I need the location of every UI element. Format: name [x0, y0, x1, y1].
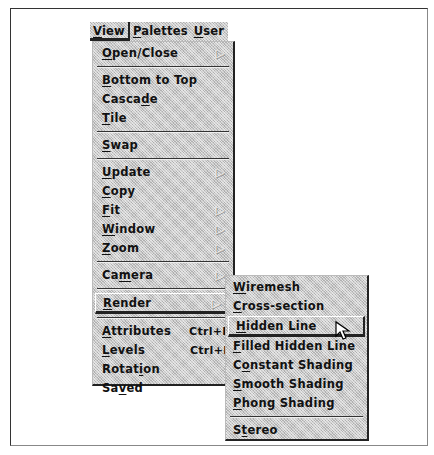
menu-item-label: Smooth Shading — [233, 377, 344, 391]
view-menu-item-bottom-to-top[interactable]: Bottom to Top — [93, 71, 233, 90]
menu-separator — [97, 66, 229, 68]
menu-item-label: Zoom — [102, 241, 139, 255]
render-menu-item-phong-shading[interactable]: Phong Shading — [226, 394, 367, 413]
menu-separator — [230, 416, 363, 418]
mnemonic-underline: t — [242, 423, 248, 437]
view-menu-item-saved[interactable]: Saved — [93, 379, 233, 398]
view-menu-item-attributes[interactable]: AttributesCtrl+B — [93, 322, 233, 341]
render-menu-item-stereo[interactable]: Stereo — [226, 421, 367, 440]
mnemonic-underline: m — [119, 268, 131, 282]
render-submenu: WiremeshCross-sectionHidden LineFilled H… — [225, 275, 369, 441]
menu-item-label: Camera — [102, 268, 153, 282]
render-menu-item-wiremesh[interactable]: Wiremesh — [226, 278, 367, 297]
mnemonic-underline: A — [102, 324, 111, 338]
menu-separator — [97, 158, 229, 160]
view-menu-item-camera[interactable]: Camera▷ — [93, 266, 233, 285]
menu-item-label: Swap — [102, 138, 138, 152]
menu-item-label: Saved — [102, 381, 143, 395]
view-menu-item-copy[interactable]: Copy — [93, 182, 233, 201]
mnemonic-underline: C — [102, 184, 111, 198]
view-menu-item-render[interactable]: Render▷ — [95, 293, 231, 314]
menu-item-label: Phong Shading — [233, 396, 335, 410]
menu-item-label: Cross-section — [233, 299, 324, 313]
menu-item-label: Constant Shading — [233, 358, 353, 372]
mnemonic-underline: o — [242, 358, 250, 372]
submenu-arrow-icon: ▷ — [215, 163, 225, 182]
view-menu: Open/Close▷Bottom to TopCascadeTileSwapU… — [92, 41, 235, 386]
menu-separator — [97, 288, 229, 290]
mnemonic-underline: S — [102, 138, 111, 152]
menubar-item-view[interactable]: View — [90, 22, 130, 41]
mnemonic-underline: S — [233, 377, 242, 391]
mouse-pointer-icon — [333, 320, 355, 342]
menu-item-label: Hidden Line — [236, 319, 317, 333]
menu-separator — [97, 317, 229, 319]
view-menu-item-levels[interactable]: LevelsCtrl+E — [93, 341, 233, 360]
menu-item-label: Wiremesh — [233, 280, 300, 294]
submenu-arrow-icon: ▷ — [215, 44, 225, 63]
menu-item-label: Update — [102, 165, 151, 179]
mnemonic-underline: B — [102, 73, 111, 87]
view-menu-item-open-close[interactable]: Open/Close▷ — [93, 44, 233, 63]
menu-item-label: Attributes — [102, 324, 171, 338]
mnemonic-underline: W — [233, 280, 246, 294]
mnemonic-underline: d — [141, 92, 150, 106]
menu-item-label: Open/Close — [102, 46, 178, 60]
menu-item-label: Copy — [102, 184, 135, 198]
mnemonic-underline: U — [102, 165, 112, 179]
menu-item-label: Rotation — [102, 362, 160, 376]
mnemonic-underline: U — [194, 24, 204, 38]
mnemonic-underline: T — [102, 111, 110, 125]
menu-separator — [97, 261, 229, 263]
mnemonic-underline: F — [102, 203, 110, 217]
view-menu-item-tile[interactable]: Tile — [93, 109, 233, 128]
view-menu-item-window[interactable]: Window▷ — [93, 220, 233, 239]
mnemonic-underline: R — [103, 296, 112, 310]
mnemonic-underline: V — [93, 24, 102, 38]
menubar-item-user[interactable]: User — [191, 22, 227, 41]
mnemonic-underline: i — [139, 362, 143, 376]
view-menu-item-update[interactable]: Update▷ — [93, 163, 233, 182]
view-menu-item-rotation[interactable]: Rotation — [93, 360, 233, 379]
mnemonic-underline: W — [102, 222, 115, 236]
mnemonic-underline: Z — [102, 241, 111, 255]
submenu-arrow-icon: ▷ — [215, 220, 225, 239]
render-menu-item-smooth-shading[interactable]: Smooth Shading — [226, 375, 367, 394]
mnemonic-underline: F — [233, 339, 241, 353]
mnemonic-underline: P — [133, 24, 141, 38]
mnemonic-underline: C — [233, 299, 242, 313]
menu-item-label: Tile — [102, 111, 127, 125]
menubar-item-palettes[interactable]: Palettes — [130, 22, 191, 41]
submenu-arrow-icon: ▷ — [211, 294, 221, 312]
menu-item-label: Levels — [102, 343, 145, 357]
menu-item-label: Fit — [102, 203, 120, 217]
mnemonic-underline: L — [102, 343, 110, 357]
menu-separator — [97, 131, 229, 133]
submenu-arrow-icon: ▷ — [215, 266, 225, 285]
menu-item-label: Cascade — [102, 92, 158, 106]
menu-bar: ViewPalettesUser — [90, 22, 228, 41]
submenu-arrow-icon: ▷ — [215, 239, 225, 258]
view-menu-item-fit[interactable]: Fit▷ — [93, 201, 233, 220]
mnemonic-underline: O — [102, 46, 112, 60]
menu-item-label: Stereo — [233, 423, 278, 437]
menu-item-label: Bottom to Top — [102, 73, 197, 87]
mnemonic-underline: v — [119, 381, 127, 395]
submenu-arrow-icon: ▷ — [215, 201, 225, 220]
menu-item-label: Render — [103, 296, 151, 310]
menu-item-label: Window — [102, 222, 155, 236]
mnemonic-underline: H — [236, 319, 246, 333]
view-menu-item-cascade[interactable]: Cascade — [93, 90, 233, 109]
render-menu-item-cross-section[interactable]: Cross-section — [226, 297, 367, 316]
mnemonic-underline: P — [233, 396, 242, 410]
view-menu-item-swap[interactable]: Swap — [93, 136, 233, 155]
view-menu-item-zoom[interactable]: Zoom▷ — [93, 239, 233, 258]
render-menu-item-constant-shading[interactable]: Constant Shading — [226, 356, 367, 375]
